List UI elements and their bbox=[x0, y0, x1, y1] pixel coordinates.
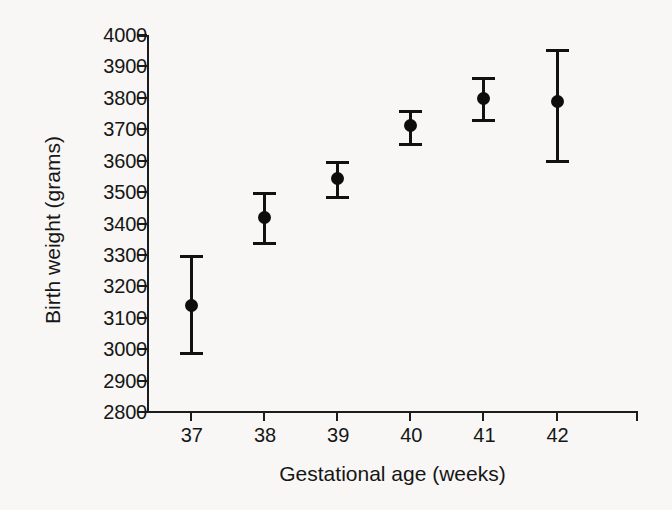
error-bar-lower-cap bbox=[326, 196, 349, 199]
error-bar-lower-cap bbox=[180, 352, 203, 355]
x-axis-tick-label: 38 bbox=[235, 424, 295, 446]
error-bar-lower-cap bbox=[472, 119, 495, 122]
y-axis-tick-label: 3300 bbox=[55, 245, 147, 265]
x-axis-tick bbox=[556, 411, 558, 421]
x-axis-tick bbox=[263, 411, 265, 421]
x-axis-tick bbox=[336, 411, 338, 421]
error-bar-upper-cap bbox=[180, 255, 203, 258]
x-axis-title: Gestational age (weeks) bbox=[147, 462, 638, 486]
error-bar-upper-cap bbox=[472, 77, 495, 80]
mean-marker-dot bbox=[551, 95, 564, 108]
mean-marker-dot bbox=[258, 211, 271, 224]
mean-marker-dot bbox=[477, 92, 490, 105]
error-bar-lower-cap bbox=[546, 160, 569, 163]
error-bar-lower-cap bbox=[399, 143, 422, 146]
x-axis-tick-label: 41 bbox=[454, 424, 514, 446]
y-axis-tick-label: 3700 bbox=[55, 119, 147, 139]
y-axis-tick-label: 2800 bbox=[55, 402, 147, 422]
x-axis-tick-label: 40 bbox=[381, 424, 441, 446]
x-axis-line bbox=[147, 411, 638, 413]
x-axis-tick bbox=[190, 411, 192, 421]
y-axis-line bbox=[147, 35, 149, 413]
y-axis-tick-label: 4000 bbox=[55, 25, 147, 45]
x-axis-tick-label: 42 bbox=[528, 424, 588, 446]
y-axis-tick-label: 3400 bbox=[55, 214, 147, 234]
y-axis-tick-label: 3600 bbox=[55, 151, 147, 171]
x-axis-tick-label: 37 bbox=[162, 424, 222, 446]
error-bar-upper-cap bbox=[546, 49, 569, 52]
x-axis-end-cap bbox=[636, 411, 638, 421]
y-axis-tick-label: 2900 bbox=[55, 371, 147, 391]
y-axis-title: Birth weight (grams) bbox=[41, 70, 65, 390]
mean-marker-dot bbox=[404, 119, 417, 132]
x-axis-tick-label: 39 bbox=[308, 424, 368, 446]
x-axis-tick bbox=[409, 411, 411, 421]
x-axis-tick bbox=[482, 411, 484, 421]
plot-area: 4000390038003700360035003400330032003100… bbox=[0, 0, 672, 510]
mean-marker-dot bbox=[185, 299, 198, 312]
y-axis-tick-label: 3900 bbox=[55, 56, 147, 76]
y-axis-tick-label: 3200 bbox=[55, 276, 147, 296]
y-axis-tick-label: 3500 bbox=[55, 182, 147, 202]
y-axis-tick-label: 3000 bbox=[55, 339, 147, 359]
y-axis-tick-label: 3800 bbox=[55, 88, 147, 108]
error-bar-upper-cap bbox=[253, 192, 276, 195]
mean-marker-dot bbox=[331, 172, 344, 185]
y-axis-tick-label: 3100 bbox=[55, 308, 147, 328]
error-bar-upper-cap bbox=[399, 110, 422, 113]
error-bar-lower-cap bbox=[253, 242, 276, 245]
error-bar-upper-cap bbox=[326, 161, 349, 164]
figure-birth-weight-by-gestational-age: 4000390038003700360035003400330032003100… bbox=[0, 0, 672, 510]
